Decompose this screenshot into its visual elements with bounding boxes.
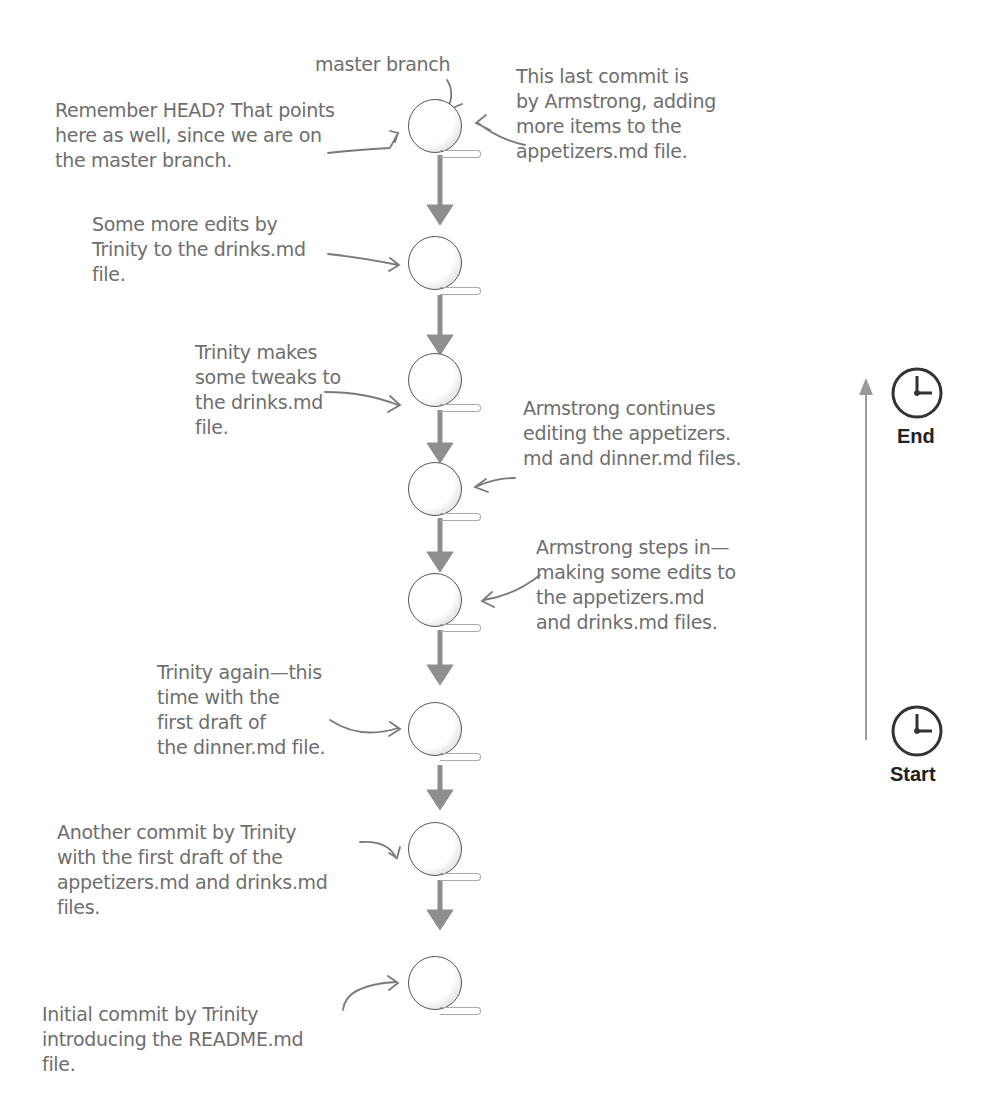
chain-arrow bbox=[427, 155, 453, 225]
commit-shadow bbox=[440, 513, 481, 521]
chain-arrow bbox=[427, 518, 453, 572]
commit-6-annotation: Trinity makes some tweaks to the drinks.… bbox=[195, 340, 341, 440]
commit-shadow bbox=[440, 873, 481, 881]
commit-node-1 bbox=[408, 956, 462, 1010]
commit-shadow bbox=[440, 150, 481, 158]
commit-5-annotation: Armstrong continues editing the appetize… bbox=[523, 396, 741, 471]
commit-node-5 bbox=[408, 462, 462, 516]
start-label: Start bbox=[890, 763, 936, 786]
commit-1-annotation: Initial commit by Trinity introducing th… bbox=[42, 1002, 303, 1077]
commit-shadow bbox=[440, 624, 481, 632]
commit-8-annotation: This last commit is by Armstrong, adding… bbox=[516, 64, 716, 164]
commit-node-6 bbox=[408, 353, 462, 407]
chain-arrow bbox=[427, 880, 453, 930]
timeline-arrow bbox=[859, 378, 873, 740]
commit-2-annotation: Another commit by Trinity with the first… bbox=[57, 820, 328, 920]
chain-arrow bbox=[427, 630, 453, 685]
chain-arrow bbox=[427, 295, 453, 355]
commit-node-4 bbox=[408, 573, 462, 627]
start-clock-icon bbox=[893, 707, 941, 755]
commit-shadow bbox=[440, 1007, 481, 1015]
commit-node-2 bbox=[408, 822, 462, 876]
master-branch-label: master branch bbox=[315, 52, 450, 77]
commit-shadow bbox=[440, 404, 481, 412]
chain-arrow bbox=[427, 765, 453, 810]
end-clock-icon bbox=[893, 369, 941, 417]
commit-node-8 bbox=[408, 99, 462, 153]
commit-shadow bbox=[440, 753, 481, 761]
commit-node-3 bbox=[408, 702, 462, 756]
chain-arrow bbox=[427, 410, 453, 463]
commit-shadow bbox=[440, 287, 481, 295]
commit-7-annotation: Some more edits by Trinity to the drinks… bbox=[92, 212, 306, 287]
commit-node-7 bbox=[408, 236, 462, 290]
end-label: End bbox=[897, 425, 935, 448]
commit-3-annotation: Trinity again—this time with the first d… bbox=[157, 660, 325, 760]
commit-4-annotation: Armstrong steps in— making some edits to… bbox=[536, 535, 736, 635]
head-note: Remember HEAD? That points here as well,… bbox=[55, 98, 335, 173]
